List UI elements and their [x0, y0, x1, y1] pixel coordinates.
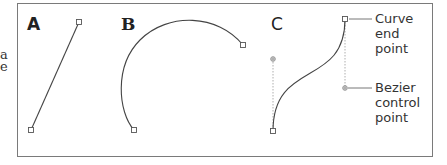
panel-c-path [271, 17, 373, 134]
callout-line: point [375, 110, 420, 125]
panel-label-b: B [121, 16, 135, 33]
callout-line: point [375, 41, 413, 56]
anchor-point-icon [77, 20, 82, 25]
callout-line: Bezier [375, 80, 420, 95]
control-point-icon [343, 86, 348, 91]
panel-b-path [121, 20, 245, 132]
control-point-icon [271, 57, 276, 62]
panel-label-c: C [271, 16, 283, 33]
anchor-point-icon [132, 128, 137, 133]
diagram-stage: a e [0, 0, 447, 165]
callout-line: end [375, 26, 413, 41]
panel-a-path [29, 20, 82, 133]
panel-label-a: A [27, 16, 40, 33]
callout-curve-end-point: Curve end point [375, 11, 413, 56]
anchor-point-icon [343, 17, 348, 22]
anchor-point-icon [271, 129, 276, 134]
callout-bezier-control-point: Bezier control point [375, 80, 420, 125]
callout-line: Curve [375, 11, 413, 26]
callout-line: control [375, 95, 420, 110]
anchor-point-icon [29, 128, 34, 133]
anchor-point-icon [241, 43, 246, 48]
